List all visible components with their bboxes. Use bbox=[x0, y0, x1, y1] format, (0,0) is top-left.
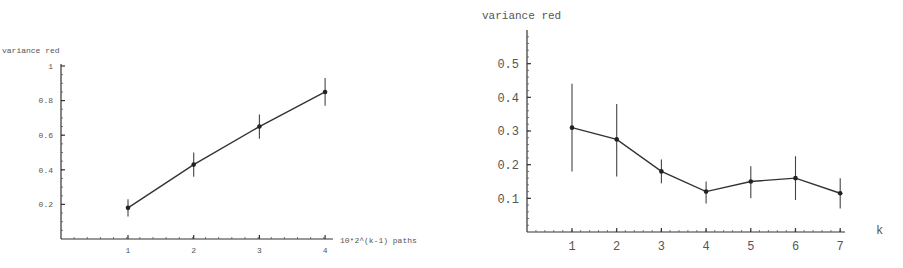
right-y-axis-label: variance red bbox=[482, 10, 561, 22]
x-tick-label: 1 bbox=[126, 246, 131, 255]
left-series-line bbox=[128, 92, 325, 208]
right-x-axis-label: k bbox=[876, 224, 883, 238]
data-point bbox=[570, 125, 575, 130]
x-tick-label: 6 bbox=[792, 240, 799, 254]
data-point bbox=[323, 90, 328, 95]
y-tick-label: 0.8 bbox=[39, 96, 54, 105]
data-point bbox=[838, 191, 843, 196]
data-point bbox=[614, 137, 619, 142]
right-y-ticks: 0.10.20.30.40.5 bbox=[497, 58, 531, 207]
data-point bbox=[704, 189, 709, 194]
y-tick-label: 1 bbox=[48, 62, 53, 71]
x-tick-label: 3 bbox=[658, 240, 665, 254]
x-tick-label: 4 bbox=[323, 246, 328, 255]
y-tick-label: 0.6 bbox=[39, 131, 54, 140]
y-tick-label: 0.5 bbox=[497, 58, 519, 72]
x-tick-label: 3 bbox=[257, 246, 262, 255]
left-minor-ticks bbox=[61, 75, 324, 239]
data-point bbox=[749, 179, 754, 184]
data-point bbox=[191, 162, 196, 167]
y-tick-label: 0.3 bbox=[497, 125, 519, 139]
x-tick-label: 5 bbox=[747, 240, 754, 254]
x-tick-label: 4 bbox=[702, 240, 709, 254]
x-tick-label: 2 bbox=[191, 246, 196, 255]
y-tick-label: 0.2 bbox=[497, 159, 519, 173]
left-y-axis-label: variance red bbox=[2, 46, 60, 55]
x-tick-label: 7 bbox=[837, 240, 844, 254]
x-tick-label: 1 bbox=[568, 240, 575, 254]
data-point bbox=[126, 206, 131, 211]
left-data-points bbox=[126, 90, 328, 211]
y-tick-label: 0.1 bbox=[497, 193, 519, 207]
y-tick-label: 0.2 bbox=[39, 200, 54, 209]
charts-canvas: variance red 0.20.40.60.81 1234 10*2^(k-… bbox=[0, 0, 903, 268]
right-chart: variance red 0.10.20.30.40.5 1234567 k bbox=[482, 10, 883, 254]
left-x-axis-label: 10*2^(k-1) paths bbox=[340, 236, 417, 245]
data-point bbox=[659, 169, 664, 174]
data-point bbox=[793, 176, 798, 181]
y-tick-label: 0.4 bbox=[39, 166, 54, 175]
right-minor-ticks bbox=[527, 37, 840, 232]
y-tick-label: 0.4 bbox=[497, 92, 519, 106]
data-point bbox=[257, 124, 262, 129]
x-tick-label: 2 bbox=[613, 240, 620, 254]
left-error-bars bbox=[128, 78, 325, 216]
left-chart: variance red 0.20.40.60.81 1234 10*2^(k-… bbox=[2, 46, 417, 255]
